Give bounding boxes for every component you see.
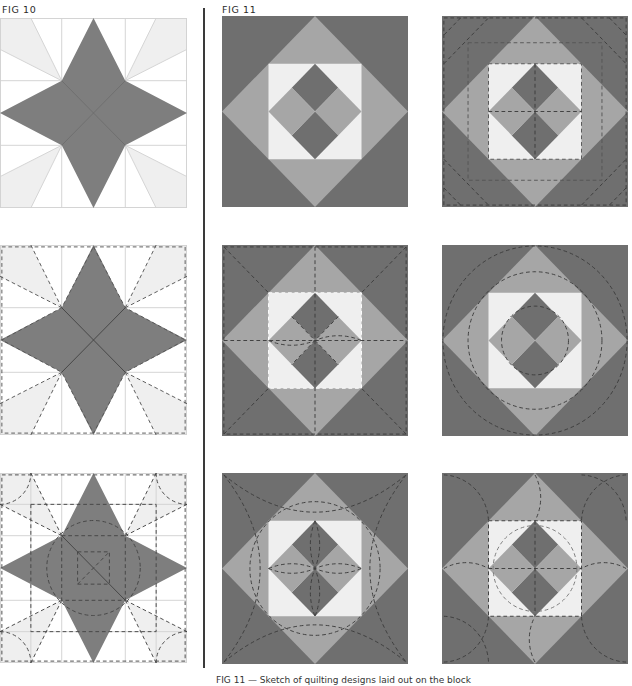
figure-caption: FIG 11 — Sketch of quilting designs laid… <box>216 675 471 685</box>
fig10-block-plain <box>0 18 187 208</box>
fig10-label: FIG 10 <box>2 4 36 15</box>
fig11-label: FIG 11 <box>222 4 256 15</box>
square-in-square-diagram <box>222 245 408 436</box>
star-block-diagram <box>0 473 187 663</box>
fig11-block-cross <box>222 245 408 436</box>
figure-divider <box>203 8 205 668</box>
square-in-square-diagram <box>442 16 628 207</box>
square-in-square-diagram <box>442 473 628 664</box>
square-in-square-diagram <box>222 16 408 207</box>
fig11-block-petals <box>442 473 628 664</box>
fig10-block-dashed <box>0 245 187 435</box>
fig11-block-arcs <box>222 473 408 664</box>
fig10-block-circles <box>0 473 187 663</box>
fig11-block-circles <box>442 245 628 436</box>
star-block-diagram <box>0 245 187 435</box>
fig11-block-plain <box>222 16 408 207</box>
square-in-square-diagram <box>222 473 408 664</box>
square-in-square-diagram <box>442 245 628 436</box>
fig11-block-diagonal <box>442 16 628 207</box>
star-block-diagram <box>0 18 187 208</box>
